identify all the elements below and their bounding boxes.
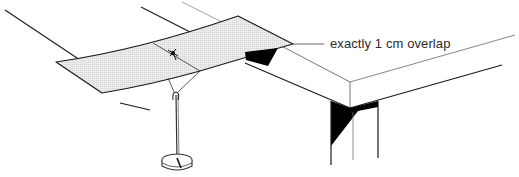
table-leg	[331, 101, 378, 165]
leg-shadow	[331, 101, 378, 146]
hanging-weight	[162, 71, 200, 170]
diagram-canvas	[0, 0, 519, 177]
paper-strip	[56, 16, 293, 93]
overlap-annotation-label: exactly 1 cm overlap	[330, 36, 451, 51]
